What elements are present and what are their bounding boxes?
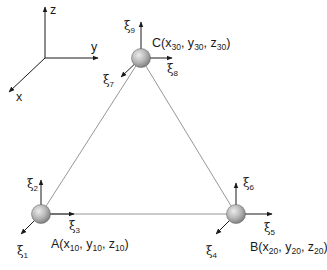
node-c-ball xyxy=(132,49,151,68)
dof-xi6-label: ξ6 xyxy=(243,176,255,192)
dof-xi1-label: ξ1 xyxy=(17,244,29,260)
triangle-edges xyxy=(41,58,236,214)
node-b-ball xyxy=(227,205,246,224)
node-a-ball xyxy=(32,205,51,224)
edge-ac xyxy=(41,58,141,214)
dof-xi5-label: ξ5 xyxy=(264,221,276,237)
truss-diagram: z y x ξ9 ξ8 ξ7 C(x30, y30, z30) ξ2 ξ3 ξ1… xyxy=(0,0,327,270)
x-axis-arrow xyxy=(9,58,45,92)
x-axis-label: x xyxy=(16,90,23,104)
dof-xi9-label: ξ9 xyxy=(124,19,136,35)
coordinate-axes: z y x xyxy=(9,3,98,104)
dof-xi2-label: ξ2 xyxy=(27,177,39,193)
node-b-label: B(x20, y20, z20) xyxy=(250,240,327,256)
dof-xi7-label: ξ7 xyxy=(103,73,115,89)
node-c: ξ9 ξ8 ξ7 C(x30, y30, z30) xyxy=(103,19,230,89)
dof-xi4-label: ξ4 xyxy=(206,244,218,260)
dof-xi3-label: ξ3 xyxy=(69,219,81,235)
node-b: ξ6 ξ5 ξ4 B(x20, y20, z20) xyxy=(206,176,327,260)
z-axis-label: z xyxy=(50,3,56,17)
node-c-label: C(x30, y30, z30) xyxy=(152,36,230,52)
edge-cb xyxy=(141,58,236,214)
y-axis-label: y xyxy=(91,40,98,54)
dof-xi8-label: ξ8 xyxy=(167,62,179,78)
node-a-label: A(x10, y10, z10) xyxy=(51,237,129,253)
node-a: ξ2 ξ3 ξ1 A(x10, y10, z10) xyxy=(17,177,129,260)
